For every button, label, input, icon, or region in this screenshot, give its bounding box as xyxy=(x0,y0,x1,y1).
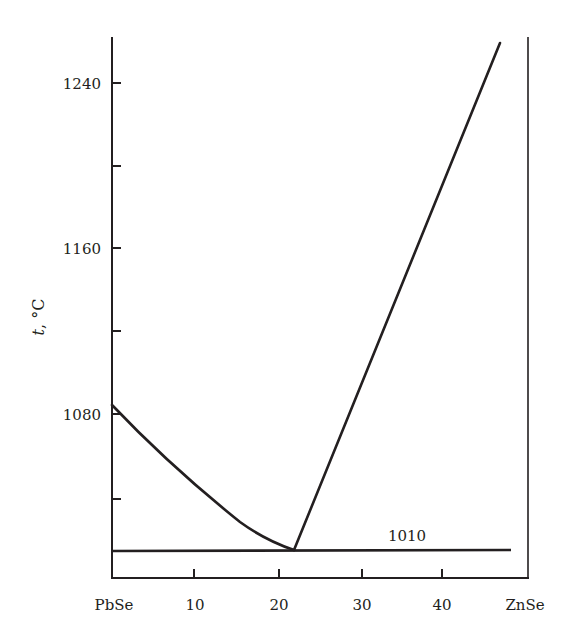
y-ticks xyxy=(112,83,121,499)
x-tick-label-10: 10 xyxy=(185,596,204,614)
y-tick-label-1240: 1240 xyxy=(63,75,101,93)
x-tick-label-40: 40 xyxy=(432,596,451,614)
y-tick-label-1080: 1080 xyxy=(63,406,101,424)
x-ticks xyxy=(194,569,442,578)
liquidus-curve-pbse xyxy=(112,405,294,550)
liquidus-line-znse xyxy=(294,43,500,550)
x-tick-label-znse: ZnSe xyxy=(505,596,544,614)
x-tick-label-pbse: PbSe xyxy=(95,596,134,614)
eutectic-temperature-label: 1010 xyxy=(388,527,426,545)
x-tick-label-30: 30 xyxy=(352,596,371,614)
x-tick-label-20: 20 xyxy=(269,596,288,614)
phase-diagram: 1240 1160 1080 t, °C PbSe 10 20 30 40 Zn… xyxy=(0,0,571,632)
y-axis-title: t, °C xyxy=(29,299,48,336)
y-tick-label-1160: 1160 xyxy=(63,240,101,258)
eutectic-line xyxy=(112,550,511,551)
